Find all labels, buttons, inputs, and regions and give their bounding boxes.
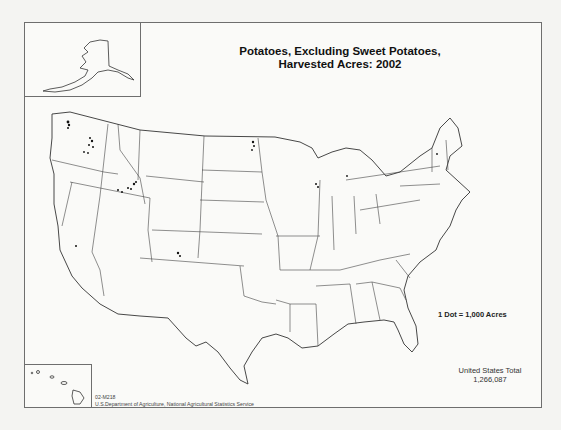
dot-clusters — [67, 121, 438, 257]
us-total: United States Total 1,266,087 — [445, 366, 535, 384]
source-credit: 02-M218 U.S.Department of Agriculture, N… — [95, 394, 254, 407]
total-label: United States Total — [445, 366, 535, 375]
dot-legend: 1 Dot = 1,000 Acres — [438, 310, 507, 319]
source-text: U.S.Department of Agriculture, National … — [95, 401, 254, 408]
title-line-1: Potatoes, Excluding Sweet Potatoes, — [225, 45, 455, 58]
total-value: 1,266,087 — [445, 375, 535, 384]
hawaii-shape — [31, 371, 84, 405]
state-boundaries — [52, 124, 448, 346]
map-title: Potatoes, Excluding Sweet Potatoes, Harv… — [225, 45, 455, 71]
title-line-2: Harvested Acres: 2002 — [225, 58, 455, 71]
alaska-shape — [43, 40, 134, 92]
